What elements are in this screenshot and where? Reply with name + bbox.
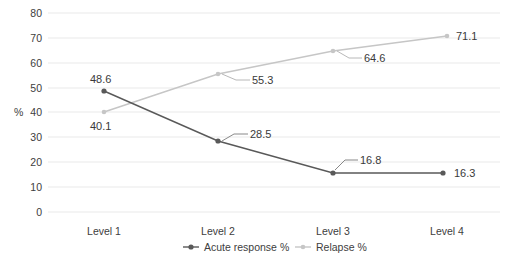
x-label-level-3: Level 3	[316, 225, 350, 237]
y-tick-80: 80	[30, 7, 42, 19]
data-label-acute-level-2: 28.5	[250, 128, 271, 140]
y-tick-60: 60	[30, 57, 42, 69]
data-label-acute-level-1: 48.6	[90, 73, 111, 85]
acute-response-point-level-3	[330, 170, 335, 175]
relapse-point-level-2	[216, 72, 221, 77]
y-tick-0: 0	[36, 206, 42, 218]
legend-marker-relapse	[301, 245, 306, 250]
y-tick-20: 20	[30, 156, 42, 168]
x-label-level-4: Level 4	[430, 225, 464, 237]
acute-response-point-level-2	[215, 138, 220, 143]
data-label-acute-level-4: 16.3	[454, 167, 475, 179]
line-chart: 80 70 60 50 40 30 20 10 0 %	[0, 0, 507, 264]
chart-legend: Acute response % Relapse %	[183, 241, 367, 253]
y-tick-30: 30	[30, 131, 42, 143]
data-label-relapse-level-2: 55.3	[252, 74, 273, 86]
y-tick-50: 50	[30, 82, 42, 94]
chart-canvas: 80 70 60 50 40 30 20 10 0 %	[0, 0, 507, 264]
y-tick-10: 10	[30, 181, 42, 193]
acute-response-point-level-4	[440, 170, 445, 175]
relapse-point-level-1	[102, 110, 107, 115]
relapse-point-level-3	[331, 49, 336, 54]
relapse-point-level-4	[445, 34, 450, 39]
data-label-relapse-level-3: 64.6	[364, 52, 385, 64]
data-label-relapse-level-4: 71.1	[456, 30, 477, 42]
x-label-level-1: Level 1	[87, 225, 121, 237]
y-axis-title: %	[14, 106, 23, 118]
acute-response-point-level-1	[101, 88, 106, 93]
x-label-level-2: Level 2	[201, 225, 235, 237]
y-tick-70: 70	[30, 32, 42, 44]
y-axis-tick-labels: 80 70 60 50 40 30 20 10 0	[30, 7, 42, 218]
y-tick-40: 40	[30, 106, 42, 118]
legend-marker-acute-response	[188, 244, 193, 249]
data-label-acute-level-3: 16.8	[360, 154, 381, 166]
data-label-relapse-level-1: 40.1	[90, 120, 111, 132]
legend-label-relapse: Relapse %	[316, 241, 367, 253]
legend-label-acute-response: Acute response %	[204, 241, 289, 253]
